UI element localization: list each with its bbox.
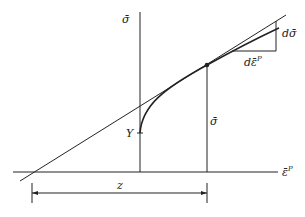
diagram-canvas: [0, 0, 305, 217]
z-right-arrow: [201, 191, 207, 195]
d-eps-label: dε̄P: [244, 56, 262, 68]
z-label: z: [117, 180, 123, 191]
y-axis-label: σ̄: [122, 14, 130, 25]
z-left-arrow: [32, 191, 38, 195]
x-axis-label: ε̄P: [282, 166, 293, 178]
tangent-line: [20, 15, 286, 181]
yield-label: Y: [126, 128, 133, 139]
tangent-point: [205, 63, 210, 68]
d-sigma-label: dσ̄: [282, 28, 297, 39]
stress-label: σ̄: [210, 116, 218, 127]
